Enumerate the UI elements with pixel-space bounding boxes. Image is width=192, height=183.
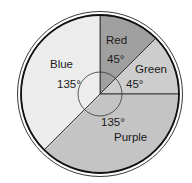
- angle-purple: 135°: [101, 116, 125, 128]
- angle-green: 45°: [126, 78, 143, 90]
- label-green: Green: [135, 63, 167, 75]
- label-blue: Blue: [50, 58, 73, 70]
- label-red: Red: [106, 34, 127, 46]
- pie-chart: Red 45° Green 45° Blue 135° 135° Purple: [0, 0, 192, 183]
- angle-red: 45°: [107, 53, 124, 65]
- angle-blue: 135°: [57, 78, 81, 90]
- label-purple: Purple: [114, 131, 147, 143]
